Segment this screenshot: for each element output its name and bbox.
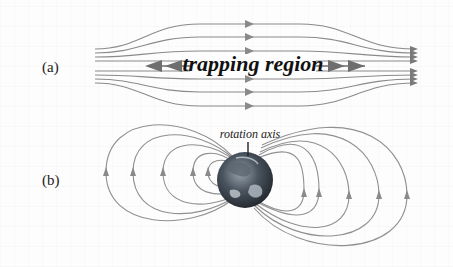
arrowhead-icon bbox=[245, 88, 254, 96]
arrowhead-icon bbox=[410, 80, 418, 86]
field-loop-right bbox=[255, 134, 379, 236]
arrowhead-icon bbox=[346, 190, 352, 199]
arrowhead-icon bbox=[245, 102, 254, 110]
panel-b-left-arrows bbox=[103, 167, 211, 176]
arrowhead-icon bbox=[190, 167, 196, 176]
arrowhead-icon bbox=[301, 188, 307, 197]
arrowhead-icon bbox=[160, 167, 166, 176]
field-line bbox=[95, 83, 415, 106]
figure-canvas: (a) bbox=[0, 0, 453, 267]
panel-a-label: (a) bbox=[42, 59, 59, 76]
trapping-region-label: trapping region bbox=[182, 51, 323, 76]
rotation-axis-label: rotation axis bbox=[220, 127, 281, 141]
arrowhead-icon bbox=[245, 75, 254, 83]
magnetic-field-figure: (a) bbox=[0, 0, 453, 267]
arrowhead-icon bbox=[205, 167, 211, 176]
arrowhead-icon bbox=[245, 20, 254, 28]
panel-a-end-arrows bbox=[410, 46, 418, 86]
field-loop-left bbox=[106, 125, 232, 221]
earth-globe bbox=[217, 152, 273, 208]
trapping-region-indicator: trapping region bbox=[145, 51, 365, 76]
arrowhead-icon bbox=[130, 167, 136, 176]
panel-b-label: (b) bbox=[42, 172, 60, 189]
arrowhead-icon bbox=[245, 33, 254, 41]
arrowhead-icon bbox=[404, 190, 410, 199]
arrowhead-icon bbox=[316, 188, 322, 197]
arrowhead-icon bbox=[376, 190, 382, 199]
arrowhead-icon bbox=[103, 167, 109, 176]
arrowhead-icon bbox=[410, 58, 418, 64]
panel-b-right-arrows bbox=[301, 188, 410, 199]
